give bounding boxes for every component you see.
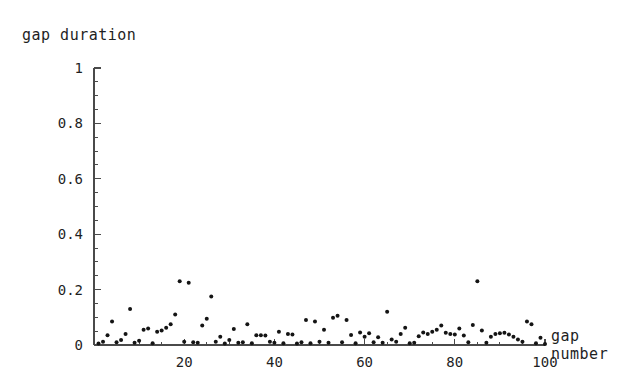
x-tick-label: 40 xyxy=(266,354,283,370)
scatter-plot: gap duration gap number 00.20.40.60.8120… xyxy=(0,0,641,389)
data-point xyxy=(376,335,380,339)
y-tick-label: 0.4 xyxy=(0,226,83,242)
data-point xyxy=(448,332,452,336)
data-point xyxy=(236,341,240,345)
data-point xyxy=(106,333,110,337)
data-point xyxy=(196,341,200,345)
data-point xyxy=(358,331,362,335)
data-point xyxy=(340,340,344,344)
data-point xyxy=(160,329,164,333)
data-point xyxy=(372,340,376,344)
data-point xyxy=(385,310,389,314)
data-point xyxy=(250,341,254,345)
data-point xyxy=(101,340,105,344)
data-point xyxy=(128,307,132,311)
data-point xyxy=(173,313,177,317)
plot-canvas xyxy=(0,0,641,389)
data-point xyxy=(281,341,285,345)
data-point xyxy=(349,333,353,337)
y-axis xyxy=(94,68,101,345)
x-tick-label: 20 xyxy=(176,354,193,370)
data-point xyxy=(354,341,358,345)
data-point xyxy=(115,340,119,344)
data-point xyxy=(507,332,511,336)
data-point xyxy=(245,322,249,326)
y-tick-label: 0 xyxy=(0,337,83,353)
data-point xyxy=(209,295,213,299)
data-point xyxy=(543,342,547,346)
data-point xyxy=(295,342,299,346)
data-point xyxy=(218,335,222,339)
data-point xyxy=(516,337,520,341)
data-point xyxy=(493,332,497,336)
data-point xyxy=(290,332,294,336)
data-point xyxy=(299,340,303,344)
data-point xyxy=(124,332,128,336)
data-point xyxy=(308,341,312,345)
data-point xyxy=(277,330,281,334)
data-point xyxy=(142,328,146,332)
data-point xyxy=(254,333,258,337)
data-point xyxy=(412,341,416,345)
data-points xyxy=(97,279,547,346)
data-point xyxy=(475,279,479,283)
data-point xyxy=(480,329,484,333)
y-tick-label: 1 xyxy=(0,60,83,76)
data-point xyxy=(390,337,394,341)
data-point xyxy=(345,318,349,322)
data-point xyxy=(444,331,448,335)
data-point xyxy=(511,335,515,339)
data-point xyxy=(169,322,173,326)
data-point xyxy=(484,341,488,345)
data-point xyxy=(232,327,236,331)
data-point xyxy=(430,330,434,334)
data-point xyxy=(399,332,403,336)
data-point xyxy=(525,319,529,323)
data-point xyxy=(263,334,267,338)
data-point xyxy=(394,340,398,344)
data-point xyxy=(119,338,123,342)
data-point xyxy=(466,340,470,344)
data-point xyxy=(336,314,340,318)
data-point xyxy=(164,326,168,330)
data-point xyxy=(110,319,114,323)
data-point xyxy=(471,323,475,327)
data-point xyxy=(426,332,430,336)
data-point xyxy=(498,331,502,335)
data-point xyxy=(146,326,150,330)
data-point xyxy=(205,317,209,321)
data-point xyxy=(97,342,101,346)
data-point xyxy=(227,338,231,342)
data-point xyxy=(489,335,493,339)
data-point xyxy=(187,281,191,285)
data-point xyxy=(421,331,425,335)
data-point xyxy=(403,326,407,330)
data-point xyxy=(417,334,421,338)
data-point xyxy=(462,334,466,338)
data-point xyxy=(304,318,308,322)
data-point xyxy=(268,340,272,344)
data-point xyxy=(534,341,538,345)
data-point xyxy=(318,340,322,344)
data-point xyxy=(178,279,182,283)
data-point xyxy=(439,324,443,328)
data-point xyxy=(327,341,331,345)
data-point xyxy=(363,335,367,339)
data-point xyxy=(286,332,290,336)
y-tick-label: 0.2 xyxy=(0,282,83,298)
data-point xyxy=(322,328,326,332)
data-point xyxy=(259,333,263,337)
data-point xyxy=(453,332,457,336)
y-tick-label: 0.8 xyxy=(0,115,83,131)
data-point xyxy=(381,341,385,345)
x-tick-label: 60 xyxy=(356,354,373,370)
data-point xyxy=(214,340,218,344)
y-tick-label: 0.6 xyxy=(0,171,83,187)
data-point xyxy=(502,331,506,335)
data-point xyxy=(331,316,335,320)
data-point xyxy=(313,319,317,323)
data-point xyxy=(200,324,204,328)
data-point xyxy=(272,341,276,345)
data-point xyxy=(367,331,371,335)
data-point xyxy=(155,330,159,334)
